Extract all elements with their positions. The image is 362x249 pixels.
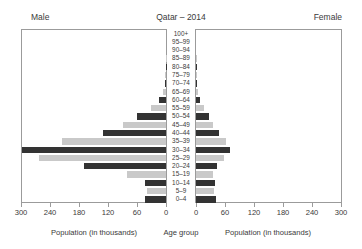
- age-group-label: 100+: [167, 30, 195, 38]
- age-group-label: 10–14: [167, 179, 195, 187]
- tick-mark: [137, 203, 138, 207]
- pyramid-row: 90–94: [0, 46, 362, 54]
- tick-mark: [166, 203, 167, 207]
- male-bar: [165, 72, 166, 78]
- male-bar: [151, 105, 166, 111]
- pyramid-row: 35–39: [0, 137, 362, 145]
- right-tick-label: 0: [194, 208, 198, 217]
- male-bar-track: [21, 46, 166, 54]
- female-bar: [196, 171, 213, 177]
- female-bar: [196, 188, 214, 194]
- age-group-label: 30–34: [167, 146, 195, 154]
- male-bar: [147, 188, 166, 194]
- left-tick-label: 300: [15, 208, 28, 217]
- population-pyramid-chart: Male Qatar – 2014 Female 100+95–9990–948…: [0, 0, 362, 249]
- male-bar-track: [21, 88, 166, 96]
- pyramid-row: 40–44: [0, 129, 362, 137]
- female-bar-track: [196, 46, 341, 54]
- male-bar-track: [21, 121, 166, 129]
- chart-title: Qatar – 2014: [0, 12, 362, 22]
- male-bar-track: [21, 179, 166, 187]
- female-bar: [196, 155, 224, 161]
- male-bar-track: [21, 146, 166, 154]
- age-group-label: 15–19: [167, 170, 195, 178]
- right-axis-caption: Population (in thousands): [225, 228, 311, 237]
- female-side-label: Female: [314, 12, 342, 22]
- right-tick-label: 240: [306, 208, 319, 217]
- pyramid-row: 85–89: [0, 54, 362, 62]
- pyramid-row: 50–54: [0, 112, 362, 120]
- female-bar: [196, 196, 216, 202]
- left-tick-label: 0: [164, 208, 168, 217]
- age-group-label: 90–94: [167, 46, 195, 54]
- pyramid-row: 75–79: [0, 71, 362, 79]
- right-tick-label: 300: [335, 208, 348, 217]
- right-tick-label: 120: [248, 208, 261, 217]
- female-bar: [196, 97, 200, 103]
- age-group-label: 75–79: [167, 71, 195, 79]
- male-bar-track: [21, 71, 166, 79]
- female-bar-track: [196, 154, 341, 162]
- age-group-label: 35–39: [167, 137, 195, 145]
- female-bar: [196, 180, 215, 186]
- female-bar-track: [196, 54, 341, 62]
- pyramid-row: 80–84: [0, 63, 362, 71]
- center-axis-caption: Age group: [163, 228, 198, 237]
- female-bar-track: [196, 179, 341, 187]
- pyramid-row: 25–29: [0, 154, 362, 162]
- female-bar-track: [196, 137, 341, 145]
- male-bar-track: [21, 38, 166, 46]
- female-bar-track: [196, 112, 341, 120]
- tick-mark: [312, 203, 313, 207]
- tick-mark: [283, 203, 284, 207]
- female-bar-track: [196, 88, 341, 96]
- pyramid-row: 65–69: [0, 88, 362, 96]
- female-bar-track: [196, 104, 341, 112]
- age-group-label: 40–44: [167, 129, 195, 137]
- pyramid-row: 55–59: [0, 104, 362, 112]
- pyramid-row: 60–64: [0, 96, 362, 104]
- pyramid-row: 0–4: [0, 195, 362, 203]
- left-axis-caption: Population (in thousands): [51, 228, 137, 237]
- right-tick-label: 60: [221, 208, 229, 217]
- male-bar-track: [21, 96, 166, 104]
- age-group-label: 60–64: [167, 96, 195, 104]
- age-group-label: 80–84: [167, 63, 195, 71]
- tick-mark: [225, 203, 226, 207]
- male-bar: [84, 163, 166, 169]
- female-bar-track: [196, 162, 341, 170]
- male-bar: [62, 138, 166, 144]
- male-bar-track: [21, 79, 166, 87]
- male-bar: [123, 122, 166, 128]
- male-bar: [103, 130, 166, 136]
- male-bar: [159, 97, 166, 103]
- male-bar-track: [21, 154, 166, 162]
- age-group-label: 70–74: [167, 79, 195, 87]
- female-bar: [196, 138, 226, 144]
- female-bar: [196, 113, 209, 119]
- female-bar-track: [196, 170, 341, 178]
- tick-mark: [79, 203, 80, 207]
- left-tick-label: 120: [102, 208, 115, 217]
- female-bar: [196, 147, 230, 153]
- tick-mark: [196, 203, 197, 207]
- pyramid-row: 45–49: [0, 121, 362, 129]
- male-bar-track: [21, 30, 166, 38]
- male-bar: [22, 147, 166, 153]
- female-bar-track: [196, 146, 341, 154]
- female-bar-track: [196, 129, 341, 137]
- female-bar-track: [196, 187, 341, 195]
- pyramid-row: 5–9: [0, 187, 362, 195]
- female-bar: [196, 72, 197, 78]
- female-bar-track: [196, 79, 341, 87]
- left-tick-label: 240: [44, 208, 57, 217]
- male-bar-track: [21, 187, 166, 195]
- pyramid-row: 30–34: [0, 146, 362, 154]
- left-tick-label: 60: [133, 208, 141, 217]
- female-bar: [196, 163, 217, 169]
- female-bar: [196, 122, 213, 128]
- pyramid-row: 10–14: [0, 179, 362, 187]
- male-bar-track: [21, 104, 166, 112]
- female-bar-track: [196, 96, 341, 104]
- tick-mark: [50, 203, 51, 207]
